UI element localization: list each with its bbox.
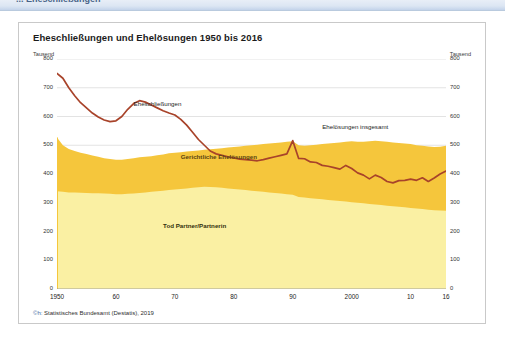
y-tick-left-100: 100 — [27, 257, 53, 263]
y-tick-left-500: 500 — [27, 142, 53, 148]
source-text: Statistisches Bundesamt (Destatis), 2019 — [44, 310, 154, 316]
x-tick-1950: 1950 — [37, 294, 77, 300]
y-tick-right-0: 0 — [450, 286, 476, 292]
page-title: Eheschließungen und Ehelösungen 1950 bis… — [33, 32, 262, 43]
annotation-gerichtliche-eheloesungen: Gerichtliche Ehelösungen — [181, 154, 257, 160]
figure-card: Eheschließungen und Ehelösungen 1950 bis… — [18, 22, 486, 324]
y-tick-left-300: 300 — [27, 200, 53, 206]
y-tick-left-800: 800 — [27, 56, 53, 62]
annotation-eheschliessungen: Eheschließungen — [134, 101, 182, 107]
y-tick-left-400: 400 — [27, 171, 53, 177]
source-note: ©h: Statistisches Bundesamt (Destatis), … — [33, 310, 154, 316]
copyright-symbol: ©h: — [33, 310, 42, 316]
x-tick-90: 90 — [273, 294, 313, 300]
breadcrumb: ... Eheschließungen — [16, 0, 101, 4]
x-tick-16: 16 — [426, 294, 466, 300]
y-tick-right-600: 600 — [450, 114, 476, 120]
y-tick-right-200: 200 — [450, 229, 476, 235]
y-tick-right-400: 400 — [450, 171, 476, 177]
y-tick-left-0: 0 — [27, 286, 53, 292]
y-tick-right-500: 500 — [450, 142, 476, 148]
y-tick-left-600: 600 — [27, 114, 53, 120]
y-tick-left-200: 200 — [27, 229, 53, 235]
chart-plot-area — [57, 59, 446, 289]
area-chart — [57, 59, 446, 289]
y-tick-right-800: 800 — [450, 56, 476, 62]
y-tick-left-700: 700 — [27, 85, 53, 91]
y-tick-right-100: 100 — [450, 257, 476, 263]
annotation-eheloesungen-insgesamt: Ehelösungen insgesamt — [322, 124, 388, 130]
x-tick-80: 80 — [214, 294, 254, 300]
y-tick-right-700: 700 — [450, 85, 476, 91]
x-tick-70: 70 — [155, 294, 195, 300]
x-tick-2000: 2000 — [332, 294, 372, 300]
page-header-strip: ... Eheschließungen — [0, 0, 505, 11]
x-tick-10: 10 — [391, 294, 431, 300]
annotation-tod-partner: Tod Partner/Partnerin — [163, 223, 226, 229]
y-tick-right-300: 300 — [450, 200, 476, 206]
x-tick-60: 60 — [96, 294, 136, 300]
